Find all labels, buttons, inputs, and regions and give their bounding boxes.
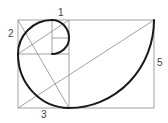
label-two: 2 — [8, 28, 14, 39]
label-one: 1 — [58, 7, 64, 18]
diagonal-main — [18, 20, 154, 108]
diagonal-small — [18, 20, 69, 54]
golden-spiral-diagram: 1 2 3 5 — [0, 0, 168, 123]
label-three: 3 — [41, 109, 47, 120]
label-five: 5 — [157, 57, 163, 68]
